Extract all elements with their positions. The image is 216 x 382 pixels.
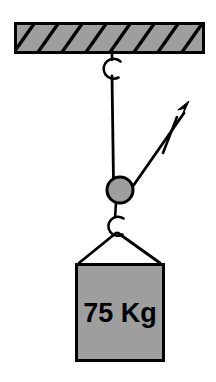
ceiling-beam — [12, 21, 216, 55]
pulley-wheel — [107, 177, 133, 203]
vertical-rope — [112, 76, 114, 182]
mass-block: 75 Kg — [77, 265, 164, 361]
sling-ropes — [79, 233, 160, 263]
force-arrow-short-line — [163, 117, 177, 153]
sling-rope-right — [118, 233, 160, 263]
hatch-line — [204, 21, 216, 55]
force-arrow-group — [124, 101, 189, 199]
force-arrowhead-icon — [178, 101, 189, 116]
mass-block-label: 75 Kg — [83, 298, 157, 328]
lower-hook — [108, 203, 123, 236]
physics-diagram-canvas: 75 Kg — [0, 0, 216, 382]
sling-rope-left — [79, 233, 116, 263]
pulley-diagram-svg: 75 Kg — [0, 0, 216, 382]
